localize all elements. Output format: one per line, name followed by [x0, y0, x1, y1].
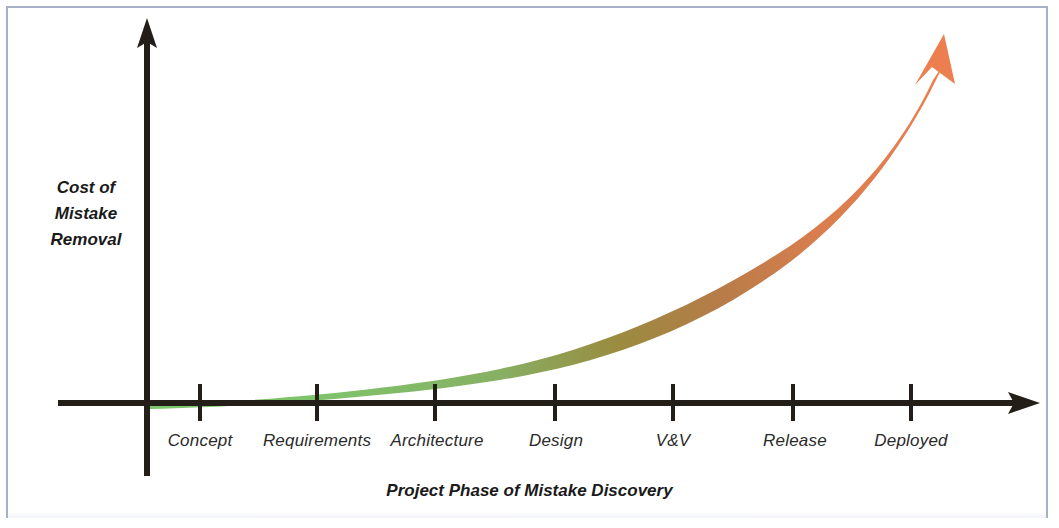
x-tick-label-vandv: V&V: [656, 431, 691, 451]
x-axis-title: Project Phase of Mistake Discovery: [0, 481, 1059, 501]
x-tick-label-architecture: Architecture: [390, 431, 483, 451]
x-tick-label-concept: Concept: [168, 431, 233, 451]
y-axis-title-line-2: Mistake: [34, 201, 138, 227]
x-tick-label-design: Design: [529, 431, 583, 451]
x-tick-label-release: Release: [763, 431, 827, 451]
y-axis-title-line-3: Removal: [34, 227, 138, 253]
y-axis-title-line-1: Cost of: [34, 175, 138, 201]
cost-curve: [150, 62, 945, 409]
y-axis-title: Cost of Mistake Removal: [34, 175, 138, 253]
x-tick-label-requirements: Requirements: [263, 431, 371, 451]
x-tick-label-deployed: Deployed: [874, 431, 947, 451]
